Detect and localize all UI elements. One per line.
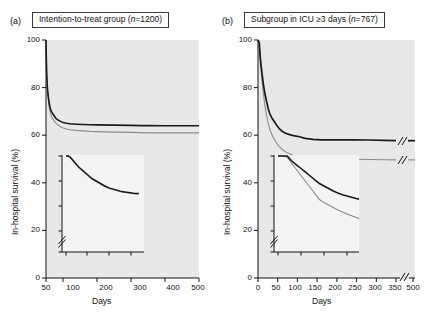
- panel-b: (b) Subgroup in ICU ≥3 days (n=767) In-h…: [214, 0, 428, 312]
- panel-b-x-tickmarks: [258, 278, 413, 282]
- panel-a: (a) Intention-to-treat group (n=1200) In…: [0, 0, 214, 312]
- panel-b-inset-background: [274, 155, 359, 252]
- panel-b-plot: [214, 0, 428, 312]
- panel-a-x-tickmarks: [46, 278, 199, 282]
- survival-figure: (a) Intention-to-treat group (n=1200) In…: [0, 0, 428, 312]
- panel-a-inset-background: [62, 155, 144, 252]
- panel-a-plot: [0, 0, 214, 312]
- panel-a-y-tickmarks: [42, 40, 46, 278]
- panel-b-y-tickmarks: [254, 40, 258, 278]
